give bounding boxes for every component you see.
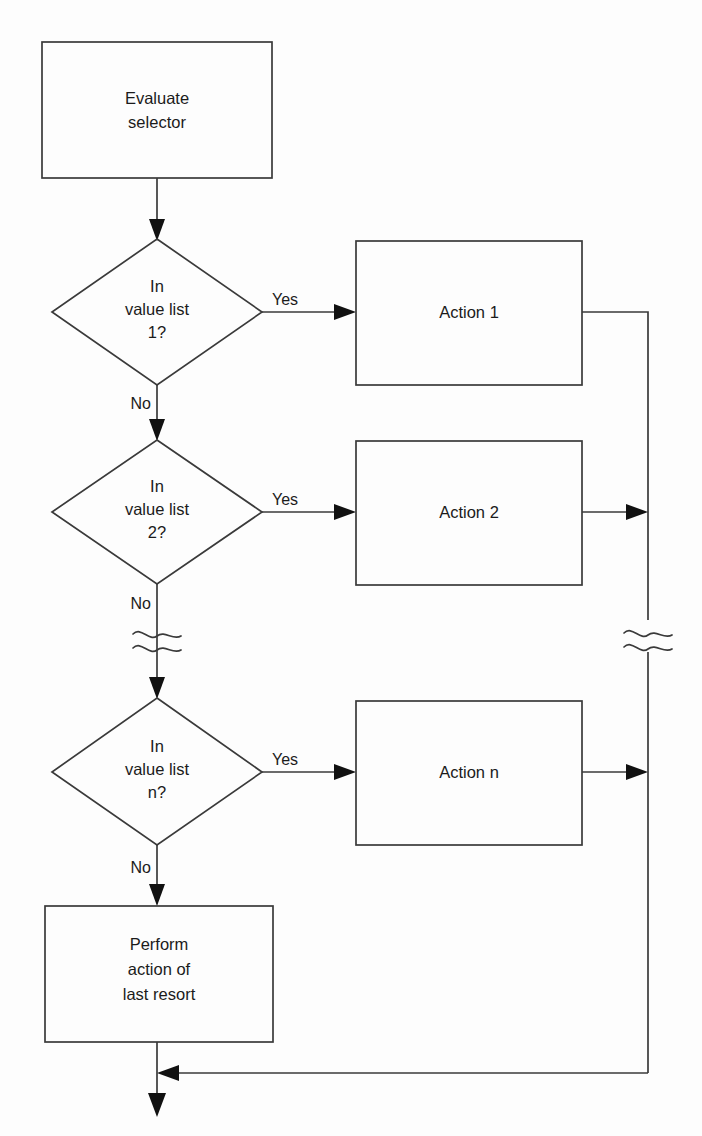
flowchart-svg: Evaluate selector In value list 1? In va…	[0, 0, 702, 1136]
node-decision3-line2: value list	[125, 760, 190, 778]
node-decision3-line1: In	[150, 737, 164, 755]
node-evaluate-selector-line2: selector	[128, 113, 186, 131]
node-evaluate-selector-line1: Evaluate	[125, 89, 189, 107]
arrowhead-right-actionn	[334, 764, 356, 780]
node-decision2-line1: In	[150, 477, 164, 495]
node-action-n-label: Action n	[439, 763, 499, 781]
arrowhead-down-exit	[148, 1093, 166, 1117]
connector-action1-to-bus	[582, 312, 648, 568]
edge-label-yes-2: Yes	[272, 491, 298, 508]
node-action-1-label: Action 1	[439, 303, 499, 321]
node-decision2-line2: value list	[125, 500, 190, 518]
node-last-resort-line2: action of	[128, 960, 191, 978]
edge-label-no-2: No	[131, 595, 152, 612]
edge-label-yes-3: Yes	[272, 751, 298, 768]
node-decision2-line3: 2?	[148, 523, 166, 541]
arrowhead-down-lastresort	[149, 884, 165, 906]
arrowhead-right-action2	[334, 504, 356, 520]
node-decision1-line2: value list	[125, 300, 190, 318]
arrowhead-left-merge	[157, 1065, 179, 1081]
node-last-resort-line3: last resort	[123, 985, 196, 1003]
right-break-icon	[624, 631, 672, 651]
arrowhead-down-decision3	[149, 677, 165, 699]
node-decision3-line3: n?	[148, 783, 166, 801]
arrowhead-right-action1	[334, 304, 356, 320]
node-decision1-line1: In	[150, 277, 164, 295]
edge-label-no-1: No	[131, 395, 152, 412]
arrowhead-down-decision1	[149, 219, 165, 241]
edge-label-no-3: No	[131, 859, 152, 876]
flowchart-canvas: Evaluate selector In value list 1? In va…	[0, 0, 702, 1136]
node-evaluate-selector[interactable]	[42, 42, 272, 178]
arrowhead-right-bus-action2	[626, 504, 648, 520]
node-last-resort-line1: Perform	[130, 935, 189, 953]
node-decision1-line3: 1?	[148, 323, 166, 341]
edge-label-yes-1: Yes	[272, 291, 298, 308]
node-action-2-label: Action 2	[439, 503, 499, 521]
arrowhead-down-decision2	[149, 419, 165, 441]
arrowhead-right-bus-actionn	[626, 764, 648, 780]
